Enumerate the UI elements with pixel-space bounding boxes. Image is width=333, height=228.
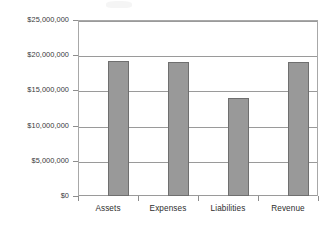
y-axis-label-15000000: $15,000,000 xyxy=(0,86,69,94)
bar-liabilities[interactable] xyxy=(228,98,249,196)
bar-chart: $25,000,000 $20,000,000 $15,000,000 $10,… xyxy=(0,0,333,228)
y-axis-label-25000000: $25,000,000 xyxy=(0,16,69,24)
x-tick-1 xyxy=(138,196,139,201)
bar-assets[interactable] xyxy=(108,61,129,196)
y-axis-label-0: $0 xyxy=(0,192,69,200)
gridline-20000000 xyxy=(79,56,317,57)
bar-revenue[interactable] xyxy=(288,62,309,196)
bar-expenses[interactable] xyxy=(168,62,189,196)
y-axis-label-5000000: $5,000,000 xyxy=(0,157,69,165)
y-tick-15000000 xyxy=(73,90,78,91)
x-tick-4 xyxy=(318,196,319,201)
y-axis-label-10000000: $10,000,000 xyxy=(0,122,69,130)
x-tick-3 xyxy=(258,196,259,201)
y-tick-25000000 xyxy=(73,20,78,21)
y-tick-5000000 xyxy=(73,161,78,162)
x-tick-0 xyxy=(78,196,79,201)
y-tick-10000000 xyxy=(73,126,78,127)
x-axis-label-revenue: Revenue xyxy=(252,204,324,214)
x-tick-2 xyxy=(198,196,199,201)
y-axis-label-20000000: $20,000,000 xyxy=(0,51,69,59)
gridline-25000000 xyxy=(79,21,317,22)
y-tick-20000000 xyxy=(73,55,78,56)
scan-artifact xyxy=(106,1,132,8)
